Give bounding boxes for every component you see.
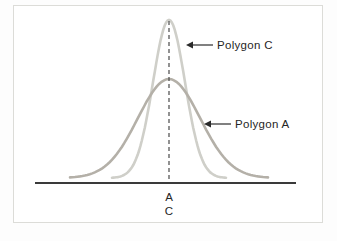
axis-label-a: A (165, 190, 173, 204)
polygon-c-arrow (186, 42, 213, 49)
polygon-a-label: Polygon A (235, 117, 290, 131)
polygon-c-label: Polygon C (217, 38, 273, 52)
axis-label-c: C (165, 204, 173, 218)
left-arrowhead-icon (186, 42, 193, 49)
polygon-a-arrow (204, 121, 231, 128)
chart-figure: Polygon C Polygon A A C (0, 0, 337, 241)
